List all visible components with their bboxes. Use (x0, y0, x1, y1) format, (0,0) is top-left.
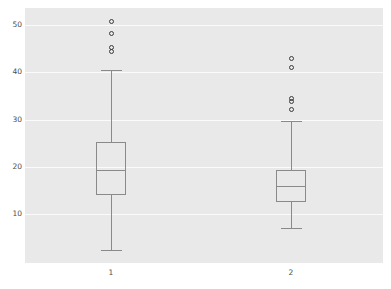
y-tick-label: 20 (0, 163, 22, 171)
upper-whisker-line (291, 121, 292, 170)
lower-whisker-cap (281, 228, 302, 229)
upper-whisker-cap (281, 121, 302, 122)
boxplot-figure: 1020304050 12 (0, 0, 391, 289)
plot-panel (25, 8, 383, 263)
outlier-point (289, 107, 294, 112)
outlier-point (289, 65, 294, 70)
box-group-2 (25, 8, 383, 263)
lower-whisker-line (291, 202, 292, 228)
y-tick-label: 30 (0, 116, 22, 124)
outlier-point (289, 56, 294, 61)
y-tick-label: 40 (0, 68, 22, 76)
outlier-point (289, 96, 294, 101)
x-tick-label-1: 1 (96, 268, 126, 277)
y-tick-label: 50 (0, 21, 22, 29)
x-tick-label-2: 2 (276, 268, 306, 277)
median-line (276, 186, 306, 187)
y-tick-label: 10 (0, 210, 22, 218)
